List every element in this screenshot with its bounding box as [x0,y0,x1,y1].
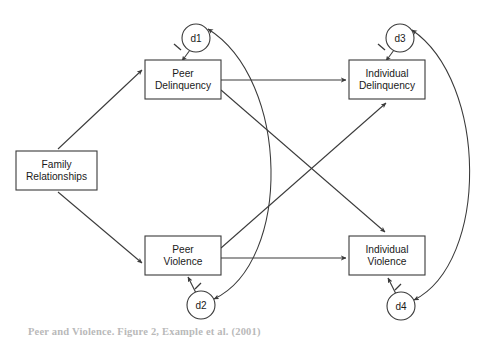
family-relationships-label-line1: Family [42,159,73,170]
node-d4[interactable]: d4 [387,292,415,320]
node-family-relationships[interactable]: Family Relationships [16,151,97,190]
node-peer-violence[interactable]: Peer Violence [145,236,221,275]
peer-violence-label-line1: Peer [172,244,194,255]
path-diagram-canvas: Family Relationships Peer Delinquency Pe… [0,0,493,337]
node-d3[interactable]: d3 [386,24,414,52]
peer-violence-to-individual-delinquency-arrow [221,103,386,248]
d1-fixed-one-tick [174,44,181,50]
figure-caption-strip: Peer and Violence. Figure 2, Example et … [0,327,493,337]
family-to-peer-violence [58,192,142,263]
individual-delinquency-label-line1: Individual [365,68,408,79]
peer-violence-label-line2: Violence [164,256,203,267]
diagram-svg: Family Relationships Peer Delinquency Pe… [0,0,493,337]
family-to-peer-delinquency-arrow [58,70,142,149]
d4-to-individual-violence-arrow [388,278,396,294]
peer-delinquency-label-line2: Delinquency [155,80,212,91]
individual-violence-label-line1: Individual [365,244,408,255]
d3-to-individual-delinquency-arrow [386,50,394,61]
peer-delinquency-to-individual-violence [221,90,385,232]
family-relationships-label-line2: Relationships [26,171,87,182]
peer-delinquency-to-individual-violence-arrow [221,90,385,232]
d4-label: d4 [395,301,407,312]
node-peer-delinquency[interactable]: Peer Delinquency [145,60,221,99]
d3-fixed-one-tick [378,44,385,50]
family-to-peer-delinquency [58,70,142,149]
d3-label: d3 [394,33,406,44]
node-d2[interactable]: d2 [187,291,215,319]
individual-violence-label-line2: Violence [368,256,407,267]
node-individual-violence[interactable]: Individual Violence [349,236,425,275]
d4-fixed-one-tick [395,284,401,290]
node-individual-delinquency[interactable]: Individual Delinquency [349,60,425,99]
individual-delinquency-label-line2: Delinquency [359,80,416,91]
d2-to-peer-violence-arrow [188,277,196,293]
peer-violence-to-individual-delinquency [221,103,386,248]
d2-label: d2 [195,300,207,311]
node-d1[interactable]: d1 [182,24,210,52]
d1-label: d1 [190,33,202,44]
d1-to-peer-delinquency-arrow [182,50,190,61]
figure-caption: Peer and Violence. Figure 2, Example et … [28,327,261,337]
peer-delinquency-label-line1: Peer [172,68,194,79]
d2-fixed-one-tick [195,283,201,289]
family-to-peer-violence-arrow [58,192,142,263]
